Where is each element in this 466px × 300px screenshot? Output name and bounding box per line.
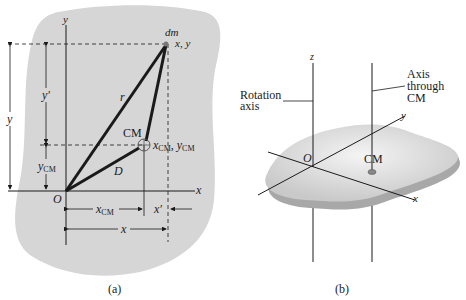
figure-a: y y′ yCM xCM x′ x y x O dm x, y r CM xCM…	[4, 5, 220, 296]
label-y-prime: y′	[41, 88, 50, 102]
label-origin: O	[53, 192, 62, 206]
label-y-axis-b: y	[400, 109, 406, 121]
label-r: r	[120, 90, 125, 104]
label-x-axis-b: x	[412, 192, 418, 204]
label-x-prime: x′	[153, 202, 162, 216]
cm-axis-leader	[372, 86, 405, 91]
label-y-axis: y	[62, 13, 68, 25]
label-D: D	[113, 164, 123, 178]
figure-canvas: y y′ yCM xCM x′ x y x O dm x, y r CM xCM…	[0, 0, 466, 300]
dm-point	[164, 42, 169, 47]
label-dm-coords: x, y	[174, 37, 190, 49]
cm-symbol	[138, 139, 150, 151]
label-cm-axis-3: CM	[407, 91, 426, 105]
figure-b: z Rotation axis Axis through CM y x O CM…	[240, 51, 460, 296]
cm-dot	[368, 170, 376, 175]
label-cm: CM	[123, 126, 142, 140]
label-dim-x: x	[120, 222, 127, 236]
label-z-axis: z	[309, 51, 314, 62]
plate-top	[265, 125, 458, 202]
label-dim-y: y	[6, 112, 13, 126]
label-cm-b: CM	[364, 152, 383, 166]
label-rotation-axis-2: axis	[240, 99, 260, 113]
label-x-axis: x	[195, 183, 202, 197]
caption-a: (a)	[108, 282, 121, 296]
label-origin-b: O	[303, 151, 312, 165]
caption-b: (b)	[335, 282, 349, 296]
